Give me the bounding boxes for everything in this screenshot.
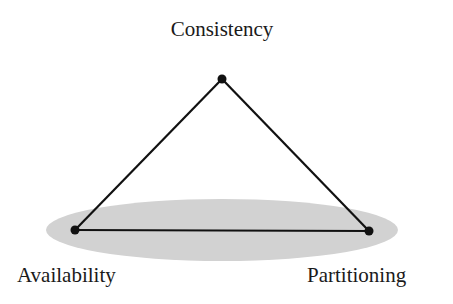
- edge-availability-partitioning: [75, 230, 369, 231]
- cap-triangle-diagram: Consistency Availability Partitioning: [0, 0, 453, 304]
- node-consistency: [218, 75, 227, 84]
- label-consistency: Consistency: [171, 17, 274, 41]
- label-partitioning: Partitioning: [307, 263, 407, 287]
- node-partitioning: [365, 227, 374, 236]
- label-availability: Availability: [17, 263, 116, 287]
- node-availability: [71, 226, 80, 235]
